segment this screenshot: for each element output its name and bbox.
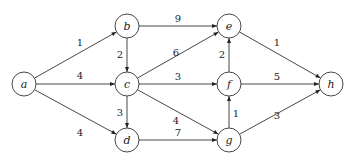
edge-weight-f-h: 5 bbox=[274, 71, 280, 82]
node-a: a bbox=[12, 72, 36, 96]
edge-weight-g-h: 3 bbox=[274, 110, 280, 121]
node-label-e: e bbox=[226, 20, 233, 33]
node-d: d bbox=[115, 128, 139, 152]
edge-a-b bbox=[34, 32, 116, 78]
graph-diagram: 144926343721153 abcdefgh bbox=[0, 0, 352, 164]
edge-a-d bbox=[35, 90, 117, 135]
edge-weight-b-c: 2 bbox=[117, 49, 123, 60]
edge-weight-c-e: 6 bbox=[173, 47, 179, 58]
node-f: f bbox=[217, 72, 241, 96]
node-e: e bbox=[217, 14, 241, 38]
node-label-g: g bbox=[225, 134, 232, 147]
edge-weight-g-f: 1 bbox=[233, 108, 239, 119]
edge-weight-e-h: 1 bbox=[274, 37, 280, 48]
edge-weight-d-g: 7 bbox=[175, 127, 181, 138]
edge-weight-c-g: 4 bbox=[173, 115, 179, 126]
edge-weight-a-b: 1 bbox=[77, 37, 83, 48]
edge-weight-c-d: 3 bbox=[117, 107, 123, 118]
node-label-d: d bbox=[123, 134, 130, 147]
edge-weight-a-c: 4 bbox=[77, 70, 83, 81]
edge-weights-layer: 144926343721153 bbox=[77, 13, 280, 138]
node-c: c bbox=[115, 72, 139, 96]
node-g: g bbox=[217, 128, 241, 152]
edge-weight-a-d: 4 bbox=[77, 127, 83, 138]
node-label-a: a bbox=[21, 78, 28, 91]
edge-weight-b-e: 9 bbox=[175, 13, 181, 24]
node-label-b: b bbox=[123, 20, 130, 33]
node-label-c: c bbox=[124, 78, 130, 91]
edge-weight-f-e: 2 bbox=[219, 49, 225, 60]
node-h: h bbox=[319, 72, 343, 96]
node-label-h: h bbox=[327, 78, 334, 91]
edge-weight-c-f: 3 bbox=[175, 71, 181, 82]
node-b: b bbox=[115, 14, 139, 38]
